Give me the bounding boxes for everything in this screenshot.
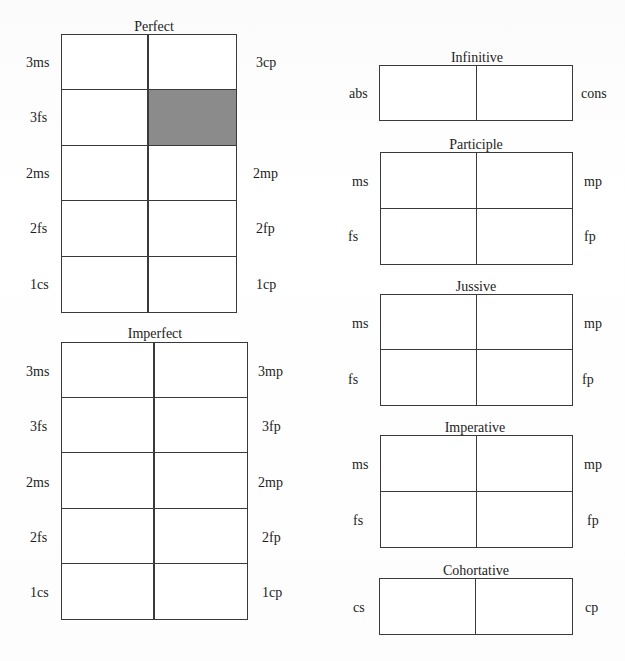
imperfect-cell-1cp[interactable] xyxy=(155,564,247,619)
participle-cell-fs[interactable] xyxy=(381,209,477,265)
jussive-title: Jussive xyxy=(456,280,496,294)
imperative-grid xyxy=(380,435,573,548)
jussive-label-ms: ms xyxy=(352,317,368,331)
cohortative-label-cp: cp xyxy=(585,601,598,615)
perfect-label-2mp: 2mp xyxy=(253,167,278,181)
perfect-cell-2ms[interactable] xyxy=(62,146,149,201)
jussive-cell-fs[interactable] xyxy=(381,350,477,405)
participle-cell-ms[interactable] xyxy=(381,153,477,209)
jussive-label-mp: mp xyxy=(584,317,602,331)
cohortative-cell-cs[interactable] xyxy=(380,579,476,634)
imperative-cell-fp[interactable] xyxy=(477,492,572,548)
perfect-label-2fp: 2fp xyxy=(256,222,275,236)
imperfect-cell-3ms[interactable] xyxy=(62,343,155,398)
imperative-label-ms: ms xyxy=(352,458,368,472)
infinitive-label-abs: abs xyxy=(349,87,368,101)
imperfect-label-2ms: 2ms xyxy=(26,476,49,490)
imperfect-cell-3fs[interactable] xyxy=(62,398,155,453)
infinitive-cell-abs[interactable] xyxy=(380,66,477,120)
jussive-cell-fp[interactable] xyxy=(477,350,572,405)
participle-cell-mp[interactable] xyxy=(477,153,572,209)
imperfect-cell-2mp[interactable] xyxy=(155,453,247,508)
perfect-title: Perfect xyxy=(134,20,174,34)
imperfect-label-3fp: 3fp xyxy=(262,420,281,434)
participle-label-fs: fs xyxy=(348,230,358,244)
infinitive-grid xyxy=(379,65,573,121)
cohortative-cell-cp[interactable] xyxy=(476,579,572,634)
imperfect-label-1cp: 1cp xyxy=(262,586,282,600)
jussive-cell-mp[interactable] xyxy=(477,295,572,350)
imperative-label-fs: fs xyxy=(353,514,363,528)
perfect-cell-3ms[interactable] xyxy=(62,35,149,90)
imperative-title: Imperative xyxy=(445,421,506,435)
paradigm-chart-page: Perfect 3ms 3fs 2ms 2fs 1cs 3cp 2mp 2fp … xyxy=(0,0,625,661)
imperfect-label-3ms: 3ms xyxy=(26,365,49,379)
participle-label-mp: mp xyxy=(584,175,602,189)
perfect-cell-2mp[interactable] xyxy=(149,146,236,201)
jussive-cell-ms[interactable] xyxy=(381,295,477,350)
participle-grid xyxy=(380,152,573,265)
imperative-cell-fs[interactable] xyxy=(381,492,477,548)
perfect-label-2fs: 2fs xyxy=(30,222,47,236)
perfect-cell-3cp[interactable] xyxy=(149,35,236,90)
imperfect-grid xyxy=(61,342,248,620)
perfect-label-1cp: 1cp xyxy=(256,278,276,292)
imperfect-label-3fs: 3fs xyxy=(30,420,47,434)
participle-cell-fp[interactable] xyxy=(477,209,572,265)
perfect-cell-shaded xyxy=(149,90,236,145)
imperfect-cell-2fp[interactable] xyxy=(155,509,247,564)
imperfect-cell-3mp[interactable] xyxy=(155,343,247,398)
imperfect-label-2fs: 2fs xyxy=(30,531,47,545)
imperative-cell-ms[interactable] xyxy=(381,436,477,492)
imperfect-label-1cs: 1cs xyxy=(30,586,49,600)
perfect-label-1cs: 1cs xyxy=(30,278,49,292)
imperative-label-fp: fp xyxy=(587,514,599,528)
participle-label-fp: fp xyxy=(584,230,596,244)
perfect-label-3cp: 3cp xyxy=(256,56,276,70)
perfect-cell-2fs[interactable] xyxy=(62,201,149,256)
imperfect-cell-3fp[interactable] xyxy=(155,398,247,453)
perfect-label-3fs: 3fs xyxy=(30,111,47,125)
imperfect-label-2mp: 2mp xyxy=(258,476,283,490)
perfect-cell-2fp[interactable] xyxy=(149,201,236,256)
perfect-label-2ms: 2ms xyxy=(26,167,49,181)
infinitive-label-cons: cons xyxy=(581,87,607,101)
participle-title: Participle xyxy=(449,138,503,152)
imperative-label-mp: mp xyxy=(584,458,602,472)
imperfect-label-3mp: 3mp xyxy=(258,365,283,379)
imperfect-cell-2fs[interactable] xyxy=(62,509,155,564)
jussive-label-fs: fs xyxy=(348,373,358,387)
perfect-label-3ms: 3ms xyxy=(26,56,49,70)
imperative-cell-mp[interactable] xyxy=(477,436,572,492)
infinitive-title: Infinitive xyxy=(451,51,503,65)
participle-label-ms: ms xyxy=(352,175,368,189)
cohortative-title: Cohortative xyxy=(443,564,509,578)
perfect-cell-1cs[interactable] xyxy=(62,257,149,312)
imperfect-title: Imperfect xyxy=(128,327,182,341)
imperfect-cell-1cs[interactable] xyxy=(62,564,155,619)
cohortative-label-cs: cs xyxy=(353,601,365,615)
jussive-grid xyxy=(380,294,573,406)
perfect-cell-3fs[interactable] xyxy=(62,90,149,145)
perfect-cell-1cp[interactable] xyxy=(149,257,236,312)
imperfect-cell-2ms[interactable] xyxy=(62,453,155,508)
imperfect-label-2fp: 2fp xyxy=(262,531,281,545)
perfect-grid xyxy=(61,34,237,313)
infinitive-cell-cons[interactable] xyxy=(477,66,572,120)
cohortative-grid xyxy=(379,578,573,635)
jussive-label-fp: fp xyxy=(582,373,594,387)
